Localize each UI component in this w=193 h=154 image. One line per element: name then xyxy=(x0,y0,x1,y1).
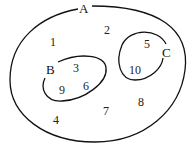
set-c-outline xyxy=(119,32,166,80)
set-c-label: C xyxy=(162,45,171,60)
element-5: 5 xyxy=(144,37,150,51)
element-4: 4 xyxy=(53,113,59,127)
element-1: 1 xyxy=(50,35,56,49)
set-a-outline xyxy=(10,6,186,142)
element-6: 6 xyxy=(83,79,89,93)
element-7: 7 xyxy=(103,104,109,118)
set-b-label: B xyxy=(46,62,55,77)
element-9: 9 xyxy=(59,83,65,97)
venn-diagram: A B C 1 2 3 4 5 6 7 8 9 10 xyxy=(0,0,193,154)
element-3: 3 xyxy=(73,61,79,75)
set-a-label: A xyxy=(79,1,89,16)
element-10: 10 xyxy=(129,63,141,77)
element-2: 2 xyxy=(104,23,110,37)
element-8: 8 xyxy=(138,95,144,109)
